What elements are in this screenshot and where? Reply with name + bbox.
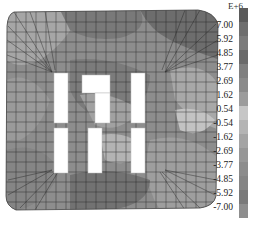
opening-top-center-lower xyxy=(95,93,110,123)
opening-top-center xyxy=(82,75,110,93)
legend-label: 1.62 xyxy=(199,90,233,100)
legend-label: -4.85 xyxy=(199,174,233,184)
opening-bottom-center xyxy=(88,128,102,173)
legend-label: -7.00 xyxy=(199,202,233,212)
legend-swatch xyxy=(239,92,248,106)
legend-label: 5.92 xyxy=(199,34,233,44)
legend-label: 3.77 xyxy=(199,62,233,72)
legend-swatch xyxy=(239,190,248,204)
legend-label: -3.77 xyxy=(199,160,233,170)
legend-swatch xyxy=(239,148,248,162)
openings xyxy=(54,73,145,173)
legend-swatch xyxy=(239,162,248,176)
legend-swatch xyxy=(239,8,248,22)
legend-label: -5.92 xyxy=(199,188,233,198)
legend-swatch xyxy=(239,106,248,120)
legend-swatch xyxy=(239,176,248,190)
opening-top-left xyxy=(54,73,68,123)
opening-bottom-right xyxy=(131,128,145,173)
legend-swatch xyxy=(239,134,248,148)
legend-swatch xyxy=(239,64,248,78)
legend-label: 4.85 xyxy=(199,48,233,58)
legend-label: -1.62 xyxy=(199,132,233,142)
legend-colorbar xyxy=(239,8,248,218)
legend-label: -0.54 xyxy=(199,118,233,128)
legend-label: 2.69 xyxy=(199,76,233,86)
opening-top-right xyxy=(131,73,145,123)
plate-contour xyxy=(0,0,225,215)
legend-swatch xyxy=(239,120,248,134)
legend-label: 7.00 xyxy=(199,20,233,30)
legend-swatch xyxy=(239,204,248,218)
legend-swatch xyxy=(239,36,248,50)
opening-bottom-left xyxy=(54,128,68,173)
legend-swatch xyxy=(239,22,248,36)
legend-swatch xyxy=(239,50,248,64)
legend-label: 0.54 xyxy=(199,104,233,114)
legend-label: -2.69 xyxy=(199,146,233,156)
legend-swatch xyxy=(239,78,248,92)
